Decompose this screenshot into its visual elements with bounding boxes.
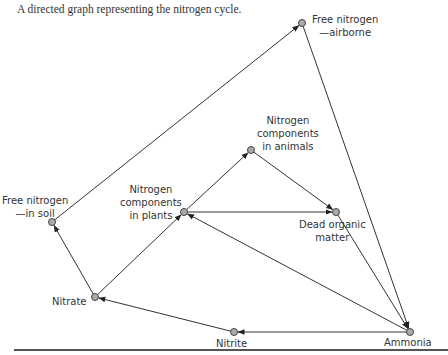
label-nitrate: Nitrate <box>52 295 87 308</box>
label-dead: Dead organic matter <box>299 218 366 244</box>
edge-nitrate-to-plants <box>98 214 182 294</box>
label-plants: Nitrogen components in plants <box>120 183 182 222</box>
node-airborne <box>299 20 306 27</box>
edge-nitrate-to-soil <box>54 225 94 294</box>
node-nitrate <box>92 294 99 301</box>
label-soil: Free nitrogen —in soil <box>2 194 68 220</box>
node-nitrite <box>231 329 238 336</box>
node-dead <box>333 209 340 216</box>
bottom-rule <box>14 349 448 351</box>
edge-plants-to-animals <box>187 152 249 209</box>
edge-animals-to-dead <box>254 152 333 210</box>
label-airborne: Free nitrogen —airborne <box>312 13 378 39</box>
edge-nitrite-to-nitrate <box>98 298 230 331</box>
node-animals <box>248 147 255 154</box>
label-animals: Nitrogen components in animals <box>257 114 319 153</box>
label-ammonia: Ammonia <box>384 336 432 349</box>
node-ammonia <box>407 329 414 336</box>
edge-ammonia-to-plants <box>187 214 407 331</box>
